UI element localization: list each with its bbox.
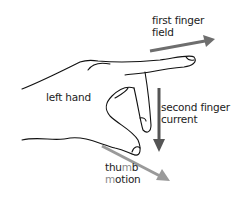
first-finger-label: first finger field <box>152 14 204 38</box>
left-hand-label: left hand <box>46 91 91 103</box>
motion-word: motion <box>105 173 141 185</box>
thumb-word: thumb <box>105 161 141 173</box>
thumb-label: thumb motion <box>105 161 141 185</box>
second-finger-label: second finger current <box>161 101 230 125</box>
